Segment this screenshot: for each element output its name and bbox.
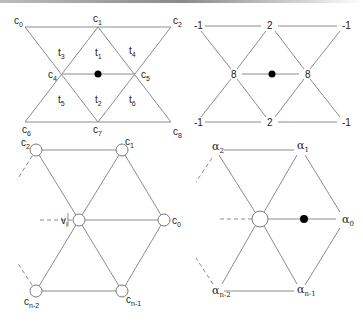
label-vi: vi: [61, 215, 68, 228]
label-t1: t1: [95, 47, 102, 60]
vertex-node-c2: [30, 144, 42, 156]
label-c8: c8: [173, 126, 182, 139]
vertex-node-vi: [73, 214, 85, 226]
edge-midpoint-dot: [269, 71, 276, 78]
vertex-node-cn2: [30, 285, 42, 297]
subdivision-diagram: c0c1c2c4c5c6c7c8t1t2t3t4t5t6 -12-188-12-…: [0, 0, 363, 321]
panel-bottom-right-ring: [196, 150, 340, 291]
label-c2: c2: [173, 15, 182, 28]
label-t2: t2: [95, 94, 102, 107]
stencil-weight: 8: [305, 69, 311, 80]
label-t6: t6: [129, 94, 136, 107]
stencil-weight: 2: [267, 117, 273, 128]
label-cn1: cn-1: [126, 294, 141, 307]
label-c1: c1: [93, 13, 102, 26]
label-cn2: cn-2: [24, 296, 39, 309]
stencil-weight: -1: [194, 117, 203, 128]
label-c5: c5: [141, 69, 150, 82]
panel-bottom-left-ring: [17, 144, 170, 297]
label-a0: α0: [342, 213, 354, 228]
label-an1: αn-1: [297, 283, 316, 298]
label-a1: α1: [297, 139, 309, 154]
label-c4: c4: [48, 69, 57, 82]
stencil-weight: -1: [342, 20, 351, 31]
label-c0: c0: [14, 15, 23, 28]
edge-midpoint-dot: [300, 215, 308, 223]
label-t4: t4: [129, 45, 136, 58]
stencil-weight: 2: [267, 20, 273, 31]
vertex-node-c0: [158, 214, 170, 226]
label-an2: αn-2: [212, 284, 231, 299]
center-vertex-node: [252, 211, 268, 227]
stencil-weight: -1: [194, 20, 203, 31]
stencil-weight: -1: [342, 117, 351, 128]
edge-midpoint-dot: [95, 71, 102, 78]
stencil-weight: 8: [231, 69, 237, 80]
label-c7: c7: [93, 124, 102, 137]
label-c2: c2: [21, 137, 30, 150]
panel-top-right-stencil: [201, 26, 340, 122]
label-t5: t5: [58, 94, 65, 107]
label-t3: t3: [58, 47, 65, 60]
label-c6: c6: [22, 124, 31, 137]
panel-bottom-left-labels: c2c1vic0cn-2cn-1: [21, 136, 181, 309]
label-a2: α2: [212, 140, 224, 155]
label-c0: c0: [172, 215, 181, 228]
